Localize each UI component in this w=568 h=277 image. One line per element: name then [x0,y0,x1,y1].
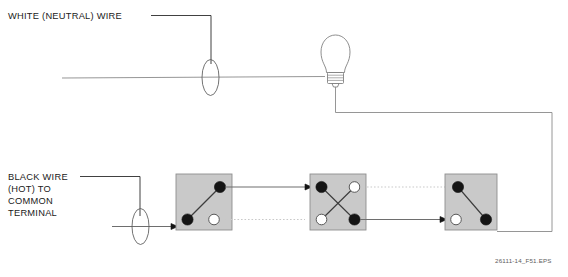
terminal-bottom-right [349,214,360,225]
incandescent-lamp [321,35,350,87]
neutral-wire [62,77,325,79]
terminal-top-right [349,182,360,193]
hot-label-leader [80,177,140,217]
wiring-diagram-figure: WHITE (NEUTRAL) WIRE BLACK WIRE [0,0,568,277]
three-way-switch-left[interactable] [176,174,232,230]
hot-wire-label-line3: COMMON [8,196,53,206]
terminal-top-right [214,181,225,192]
terminal-bottom-left [316,214,327,225]
hot-wire-label-line1: BLACK WIRE [8,172,68,182]
neutral-label-leader [151,16,211,65]
terminal-top-left [316,181,327,192]
figure-caption: 26111-14_F51.EPS [495,257,552,264]
four-way-switch-middle[interactable] [310,174,366,230]
neutral-wire-label: WHITE (NEUTRAL) WIRE [8,11,122,21]
hot-wire-label-line4: TERMINAL [8,208,57,218]
traveler-active-lower-right [360,217,447,223]
hot-feed-wire [112,224,178,230]
three-way-switch-right[interactable] [445,174,497,230]
lamp-return-wire [336,87,553,232]
hot-wire-label-line2: (HOT) TO [8,184,51,194]
terminal-bottom-right [480,214,491,225]
terminal-bottom-left [182,214,193,225]
terminal-bottom-left [451,214,462,225]
terminal-top-left [452,181,463,192]
traveler-active-upper-left [225,184,312,190]
terminal-bottom-right [209,214,220,225]
